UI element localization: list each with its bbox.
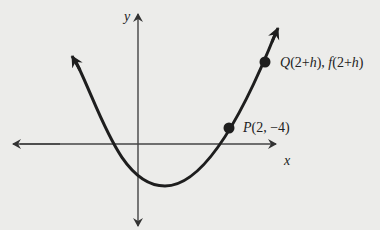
point-q xyxy=(260,57,271,68)
q-part2: (2+ xyxy=(332,55,352,70)
q-part: (2+ xyxy=(290,55,310,70)
x-axis-label: x xyxy=(284,154,290,168)
q-h2: h xyxy=(352,55,359,70)
graph-canvas: y x P(2, −4) Q(2+h), f(2+h) xyxy=(0,0,380,230)
point-p-coords: (2, −4) xyxy=(252,120,290,135)
point-p-label: P(2, −4) xyxy=(243,121,290,135)
q-mid: ), xyxy=(317,55,329,70)
q-h1: h xyxy=(310,55,317,70)
point-q-name: Q xyxy=(280,55,290,70)
point-p-name: P xyxy=(243,120,252,135)
y-axis-label: y xyxy=(124,10,130,24)
q-close: ) xyxy=(359,55,364,70)
graph-svg xyxy=(0,0,380,230)
point-q-label: Q(2+h), f(2+h) xyxy=(280,56,363,70)
parabola-curve xyxy=(76,32,276,186)
point-p xyxy=(224,123,235,134)
